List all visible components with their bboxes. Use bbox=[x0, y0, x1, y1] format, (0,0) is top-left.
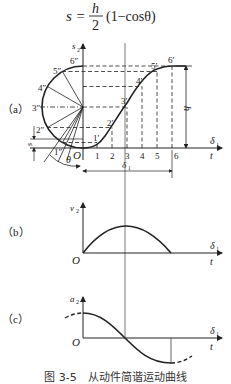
svg-text:2: 2 bbox=[76, 299, 79, 305]
svg-text:2: 2 bbox=[110, 151, 115, 161]
svg-text:(1−cosθ): (1−cosθ) bbox=[106, 9, 156, 25]
svg-text:3″: 3″ bbox=[32, 103, 41, 113]
svg-text:4′: 4′ bbox=[136, 76, 143, 86]
svg-text:3′: 3′ bbox=[121, 96, 128, 106]
svg-text:4: 4 bbox=[140, 151, 145, 161]
svg-text:5″: 5″ bbox=[53, 66, 62, 76]
svg-text:O: O bbox=[73, 149, 81, 161]
svg-text:O: O bbox=[72, 254, 80, 266]
svg-text:1: 1 bbox=[128, 165, 131, 171]
panel-a-displacement: （a） s 2 δ 1 t O bbox=[2, 41, 222, 178]
svg-text:s =: s = bbox=[66, 8, 86, 24]
velocity-curve bbox=[83, 226, 171, 253]
figure-caption: 图 3-5 从动件简谐运动曲线 bbox=[0, 368, 231, 384]
svg-text:δ: δ bbox=[122, 160, 127, 170]
svg-text:s: s bbox=[25, 143, 34, 146]
svg-text:t: t bbox=[210, 150, 213, 161]
svg-text:δ: δ bbox=[210, 135, 215, 146]
panel-b-velocity: （b） v 2 δ 1 t O bbox=[2, 203, 222, 267]
svg-text:δ: δ bbox=[210, 325, 215, 336]
svg-text:5: 5 bbox=[155, 151, 160, 161]
svg-text:1: 1 bbox=[95, 151, 100, 161]
svg-text:1′: 1′ bbox=[93, 133, 100, 143]
svg-text:6′: 6′ bbox=[168, 55, 175, 65]
svg-text:h: h bbox=[182, 106, 193, 111]
svg-text:2: 2 bbox=[92, 18, 99, 33]
svg-text:h: h bbox=[92, 1, 99, 16]
svg-text:v: v bbox=[70, 203, 74, 213]
svg-text:2″: 2″ bbox=[36, 125, 45, 135]
svg-text:1: 1 bbox=[216, 246, 219, 252]
svg-text:6″: 6″ bbox=[70, 56, 79, 66]
svg-text:2: 2 bbox=[76, 208, 79, 214]
svg-text:4″: 4″ bbox=[38, 83, 47, 93]
svg-text:δ: δ bbox=[210, 240, 215, 251]
svg-text:2: 2 bbox=[77, 47, 80, 53]
svg-text:θ: θ bbox=[66, 154, 71, 165]
panel-tag-a: （a） bbox=[2, 103, 29, 115]
svg-text:1: 1 bbox=[216, 142, 219, 148]
panel-tag-c: （c） bbox=[2, 313, 29, 325]
svg-text:O: O bbox=[72, 336, 80, 348]
svg-text:2′: 2′ bbox=[107, 118, 114, 128]
formula: s = h 2 (1−cosθ) bbox=[66, 1, 156, 33]
svg-text:1: 1 bbox=[216, 331, 219, 337]
svg-text:t: t bbox=[210, 256, 213, 267]
svg-text:5′: 5′ bbox=[151, 61, 158, 71]
panel-tag-b: （b） bbox=[2, 226, 30, 238]
panel-c-acceleration: （c） a 2 δ 1 t O bbox=[2, 294, 222, 363]
svg-text:s: s bbox=[72, 41, 76, 51]
svg-text:6: 6 bbox=[174, 151, 179, 161]
svg-text:a: a bbox=[70, 294, 75, 304]
svg-text:t: t bbox=[210, 341, 213, 352]
svg-text:1″: 1″ bbox=[54, 147, 63, 157]
